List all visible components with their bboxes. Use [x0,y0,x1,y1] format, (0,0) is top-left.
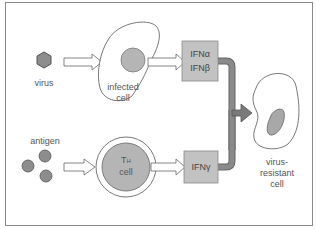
antigen-icon-1 [39,150,51,162]
antigen-icon-2 [22,160,34,172]
infected-cell-nucleus [121,48,145,72]
ifn-gamma-label: IFNγ [184,160,218,174]
ifn-alpha-beta-label: IFNα IFNβ [182,47,218,75]
antigen-label: antigen [20,136,70,147]
virus-label: virus [24,78,64,89]
virus-icon [37,52,51,68]
diagram-canvas [0,0,316,229]
arrow-antigen-to-th [64,159,95,175]
antigen-icon-3 [40,170,52,182]
resistant-cell-label: virus- resistant cell [252,157,302,190]
arrow-virus-to-cell [64,54,102,70]
arrow-th-to-ifng [151,159,185,175]
th-cell-label: THcell [106,155,146,178]
infected-cell-label: infected cell [103,82,143,104]
